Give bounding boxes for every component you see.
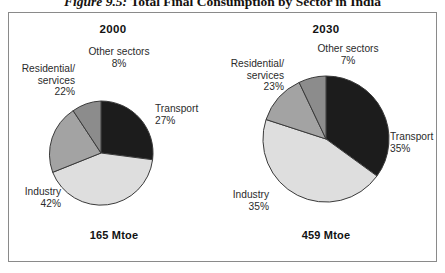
slice-value-transport-2030: 35% [390,143,445,155]
figure-number: Figure 9.5: [64,0,127,9]
slice-label-other-sectors-2030-text: Other sectors [317,43,378,54]
slice-value-industry-2030: 35% [207,201,269,213]
pie-chart-2030 [263,76,389,202]
slice-value-residential-2000: 22% [3,86,75,98]
slice-label-industry-2030-text: Industry [233,189,269,200]
pie-slice-transport-2000 [101,101,153,160]
slice-label-transport-2000-text: Transport [155,103,198,114]
slice-label-transport-2000: Transport 27% [155,103,235,126]
slice-label-residential-2030-line2: services [212,70,284,82]
slice-label-residential-2000-line2: services [3,75,75,87]
panel-year-2030: 2030 [296,23,356,35]
slice-label-transport-2030-text: Transport [390,131,433,142]
figure-title-text: Total Final Consumption by Sector in Ind… [130,0,381,9]
slice-label-other-sectors-2000-text: Other sectors [88,46,149,57]
slice-value-other-sectors-2000: 8% [77,58,161,70]
slice-label-industry-2000: Industry 42% [0,186,61,209]
figure-title: Figure 9.5: Total Final Consumption by S… [0,0,445,10]
slice-label-residential-2030: Residential/ services 23% [212,58,284,93]
panel-total-2030: 459 Mtoe [281,229,371,241]
slice-value-other-sectors-2030: 7% [306,55,390,67]
slice-value-industry-2000: 42% [0,198,61,210]
slice-label-residential-2000: Residential/ services 22% [3,63,75,98]
slice-label-other-sectors-2030: Other sectors 7% [306,43,390,66]
slice-label-other-sectors-2000: Other sectors 8% [77,46,161,69]
panel-year-2000: 2000 [83,23,143,35]
slice-label-residential-2000-line1: Residential/ [22,63,75,74]
panel-total-2000: 165 Mtoe [69,229,159,241]
slice-label-industry-2000-text: Industry [25,186,61,197]
slice-label-residential-2030-line1: Residential/ [231,58,284,69]
slice-value-transport-2000: 27% [155,115,235,127]
slice-value-residential-2030: 23% [212,81,284,93]
figure-frame: 2000 Other sectors 8% Residential/ servi… [8,12,437,262]
figure-container: Figure 9.5: Total Final Consumption by S… [0,0,445,273]
slice-label-industry-2030: Industry 35% [207,189,269,212]
slice-label-transport-2030: Transport 35% [390,131,445,154]
